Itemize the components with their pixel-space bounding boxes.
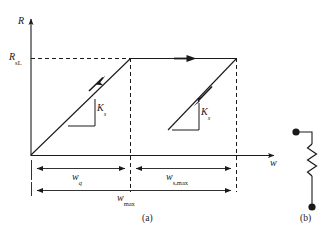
slope-label-2: Ks: [201, 107, 210, 120]
resistor-symbol: [292, 128, 316, 210]
curve-first-ramp: [31, 59, 131, 156]
dimension-label-wq: wq: [72, 172, 82, 185]
figure-container: R RsL w Ks Ks wq ws,max wmax (a) (b): [0, 0, 333, 239]
terminal-node-bottom: [308, 203, 315, 210]
y-axis-label: R: [18, 16, 24, 26]
curve-plateau: [130, 55, 237, 62]
dimension-label-wsmax: ws,max: [166, 172, 188, 185]
slope-triangle-1: [68, 99, 95, 126]
slope-label-1: Ks: [97, 103, 106, 116]
direction-arrow-tail-2: [198, 87, 212, 102]
ramp-line-1: [31, 59, 131, 156]
dimension-label-wmax: wmax: [117, 193, 135, 206]
plot-axes: [31, 19, 274, 156]
panel-caption-b: (b): [300, 213, 311, 223]
panel-caption-a: (a): [142, 213, 153, 223]
resistor-zigzag: [308, 144, 317, 176]
y-tick-label-rsl: RsL: [9, 52, 22, 65]
slope-triangle-2: [172, 103, 199, 130]
figure-svg: [0, 0, 333, 239]
x-axis-label: w: [270, 158, 277, 168]
